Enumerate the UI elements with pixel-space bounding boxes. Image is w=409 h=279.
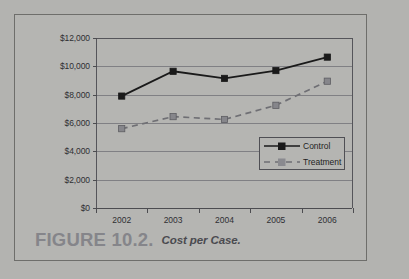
data-point-control-2002	[119, 93, 125, 99]
data-point-control-2005	[273, 67, 279, 73]
chart-region: $0$2,000$4,000$6,000$8,000$10,000$12,000…	[15, 15, 368, 220]
legend-entry-treatment: Treatment	[260, 154, 344, 170]
data-point-treatment-2002	[119, 126, 125, 132]
figure-frame: $0$2,000$4,000$6,000$8,000$10,000$12,000…	[14, 14, 367, 261]
data-point-control-2003	[170, 68, 176, 74]
data-point-treatment-2004	[221, 116, 227, 122]
data-point-control-2004	[221, 75, 227, 81]
data-point-control-2006	[324, 54, 330, 60]
legend-label-treatment: Treatment	[303, 157, 341, 167]
series-plot	[15, 15, 368, 220]
legend-swatch-treatment	[263, 155, 301, 169]
legend-swatch-control	[263, 139, 301, 153]
legend-label-control: Control	[303, 141, 330, 151]
legend-entry-control: Control	[260, 138, 344, 154]
data-point-treatment-2006	[324, 78, 330, 84]
figure-caption: FIGURE 10.2. Cost per Case.	[15, 220, 368, 260]
data-point-treatment-2003	[170, 114, 176, 120]
caption-title-text: Cost per Case.	[162, 234, 241, 246]
caption-figure-number: FIGURE 10.2.	[35, 229, 154, 251]
chart-legend: Control Treatment	[259, 137, 345, 170]
data-point-treatment-2005	[273, 102, 279, 108]
